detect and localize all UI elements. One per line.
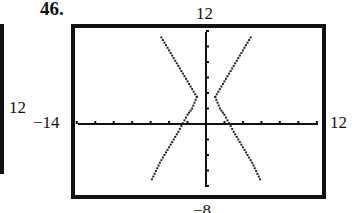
- axis-ticks: [77, 31, 317, 186]
- graph-plot: [0, 0, 352, 213]
